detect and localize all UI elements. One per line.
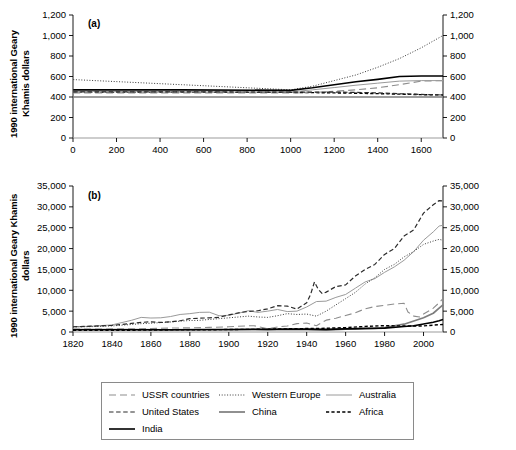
svg-text:1400: 1400 bbox=[367, 144, 388, 155]
panel-b-plot-area: 005,0005,00010,00010,00015,00015,00020,0… bbox=[0, 174, 516, 370]
svg-text:1,200: 1,200 bbox=[42, 9, 66, 20]
legend-item-united-states[interactable]: United States bbox=[108, 403, 199, 420]
panel-a-plot-area: 002002004004006006008008001,0001,0001,20… bbox=[0, 0, 516, 172]
svg-text:1860: 1860 bbox=[140, 338, 161, 349]
svg-text:5,000: 5,000 bbox=[42, 306, 66, 317]
svg-text:1900: 1900 bbox=[218, 338, 239, 349]
svg-text:15,000: 15,000 bbox=[450, 264, 479, 275]
panel-a-tag: (a) bbox=[88, 18, 100, 29]
svg-text:1,000: 1,000 bbox=[450, 30, 474, 41]
series-line-india bbox=[73, 76, 443, 90]
series-line-western-europe bbox=[73, 36, 443, 90]
svg-text:600: 600 bbox=[50, 71, 66, 82]
svg-text:800: 800 bbox=[239, 144, 255, 155]
legend-item-india[interactable]: India bbox=[108, 420, 163, 437]
series-line-ussr-countries bbox=[73, 299, 443, 329]
svg-text:25,000: 25,000 bbox=[450, 222, 479, 233]
series-line-united-states bbox=[73, 201, 443, 327]
svg-text:2000: 2000 bbox=[413, 338, 434, 349]
svg-text:0: 0 bbox=[450, 132, 455, 143]
chart-panel-a: 1990 international Geary Khamis dollars … bbox=[0, 0, 516, 172]
svg-text:400: 400 bbox=[152, 144, 168, 155]
svg-text:20,000: 20,000 bbox=[450, 243, 479, 254]
svg-text:1820: 1820 bbox=[62, 338, 83, 349]
legend-swatch-short-dash-icon bbox=[325, 407, 353, 417]
svg-text:1600: 1600 bbox=[411, 144, 432, 155]
legend-label: China bbox=[252, 406, 277, 417]
svg-text:600: 600 bbox=[450, 71, 466, 82]
svg-text:800: 800 bbox=[450, 50, 466, 61]
svg-text:15,000: 15,000 bbox=[37, 264, 66, 275]
svg-text:10,000: 10,000 bbox=[37, 285, 66, 296]
svg-text:20,000: 20,000 bbox=[37, 243, 66, 254]
svg-text:1200: 1200 bbox=[324, 144, 345, 155]
legend-swatch-solid-icon bbox=[108, 424, 136, 434]
svg-text:25,000: 25,000 bbox=[37, 222, 66, 233]
legend-swatch-dash-icon bbox=[108, 407, 136, 417]
svg-text:10,000: 10,000 bbox=[450, 285, 479, 296]
svg-text:200: 200 bbox=[50, 112, 66, 123]
legend-item-china[interactable]: China bbox=[218, 403, 277, 420]
svg-text:1880: 1880 bbox=[179, 338, 200, 349]
legend-item-ussr-countries[interactable]: USSR countries bbox=[108, 386, 210, 403]
chart-legend: USSR countriesWestern EuropeAustraliaUni… bbox=[101, 382, 414, 440]
svg-text:1960: 1960 bbox=[335, 338, 356, 349]
series-line-australia bbox=[73, 225, 443, 327]
svg-text:400: 400 bbox=[450, 91, 466, 102]
svg-text:1980: 1980 bbox=[374, 338, 395, 349]
legend-swatch-solid-icon bbox=[218, 407, 246, 417]
svg-text:0: 0 bbox=[450, 326, 455, 337]
svg-text:35,000: 35,000 bbox=[450, 180, 479, 191]
svg-text:400: 400 bbox=[50, 91, 66, 102]
legend-item-western-europe[interactable]: Western Europe bbox=[218, 386, 320, 403]
legend-label: Africa bbox=[359, 406, 383, 417]
svg-text:0: 0 bbox=[61, 132, 66, 143]
svg-text:1,200: 1,200 bbox=[450, 9, 474, 20]
svg-text:600: 600 bbox=[196, 144, 212, 155]
svg-text:0: 0 bbox=[61, 326, 66, 337]
legend-swatch-dotted-icon bbox=[218, 390, 246, 400]
svg-text:35,000: 35,000 bbox=[37, 180, 66, 191]
legend-label: United States bbox=[142, 406, 199, 417]
svg-text:30,000: 30,000 bbox=[37, 201, 66, 212]
legend-label: USSR countries bbox=[142, 389, 210, 400]
svg-text:5,000: 5,000 bbox=[450, 306, 474, 317]
legend-swatch-long-dash-icon bbox=[108, 390, 136, 400]
svg-text:200: 200 bbox=[450, 112, 466, 123]
svg-text:0: 0 bbox=[70, 144, 75, 155]
svg-text:1940: 1940 bbox=[296, 338, 317, 349]
svg-text:800: 800 bbox=[50, 50, 66, 61]
svg-text:1,000: 1,000 bbox=[42, 30, 66, 41]
svg-text:1920: 1920 bbox=[257, 338, 278, 349]
legend-item-australia[interactable]: Australia bbox=[325, 386, 396, 403]
series-line-western-europe bbox=[73, 239, 443, 327]
chart-panel-b: 1990 international Geary Khamis dollars … bbox=[0, 174, 516, 370]
svg-text:1000: 1000 bbox=[280, 144, 301, 155]
legend-label: Australia bbox=[359, 389, 396, 400]
svg-text:30,000: 30,000 bbox=[450, 201, 479, 212]
legend-label: India bbox=[142, 423, 163, 434]
panel-b-tag: (b) bbox=[88, 190, 101, 201]
legend-item-africa[interactable]: Africa bbox=[325, 403, 383, 420]
svg-text:1840: 1840 bbox=[101, 338, 122, 349]
svg-text:200: 200 bbox=[109, 144, 125, 155]
legend-swatch-solid-icon bbox=[325, 390, 353, 400]
legend-label: Western Europe bbox=[252, 389, 320, 400]
